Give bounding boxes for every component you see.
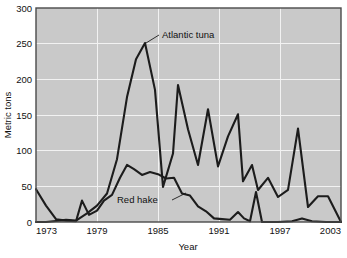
x-tick-2003: 2003 <box>320 225 341 236</box>
y-tick-50: 50 <box>21 181 32 192</box>
x-tick-1991: 1991 <box>208 225 229 236</box>
x-tick-1985: 1985 <box>147 225 168 236</box>
y-axis-title: Metric tons <box>2 92 13 139</box>
y-tick-300: 300 <box>16 3 32 14</box>
y-tick-100: 100 <box>16 145 32 156</box>
series-label-atlantic-tuna: Atlantic tuna <box>162 29 215 40</box>
line-chart: Atlantic tuna Red hake 300 250 200 150 1… <box>0 0 347 258</box>
series-label-red-hake: Red hake <box>117 194 158 205</box>
y-tick-0: 0 <box>27 217 32 228</box>
x-axis-title: Year <box>178 241 197 252</box>
x-axis-tick-labels: 1973 1979 1985 1991 1997 2003 <box>36 225 341 236</box>
y-axis-tick-labels: 300 250 200 150 100 50 0 <box>16 3 32 228</box>
x-tick-1973: 1973 <box>36 225 57 236</box>
y-tick-150: 150 <box>16 110 32 121</box>
x-tick-1997: 1997 <box>269 225 290 236</box>
x-tick-1979: 1979 <box>86 225 107 236</box>
y-tick-200: 200 <box>16 74 32 85</box>
y-tick-250: 250 <box>16 38 32 49</box>
chart-figure: Atlantic tuna Red hake 300 250 200 150 1… <box>0 0 347 258</box>
